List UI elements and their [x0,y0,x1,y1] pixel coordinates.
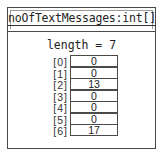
array-cell: 17 [70,124,118,136]
array-index: [2] [36,79,68,91]
object-header: noOfTextMessages:int[] [8,8,155,32]
array-row: [6] 17 [8,125,155,137]
object-title: noOfTextMessages:int[] [8,11,156,26]
array-index: [4] [36,102,68,114]
array-index: [5] [36,114,68,126]
array-cell: 0 [70,101,118,113]
array-cell: 0 [70,67,118,79]
array-index: [1] [36,68,68,80]
array-index: [3] [36,91,68,103]
array-object-box: noOfTextMessages:int[] length = 7 [0] 0 … [7,7,156,149]
array-index: [0] [36,56,68,68]
object-title-wrap: noOfTextMessages:int[] [8,11,155,25]
array-cell: 0 [70,55,118,67]
array-cell: 13 [70,78,118,90]
array-cell: 0 [70,90,118,102]
length-field: length = 7 [8,38,155,52]
array-cell: 0 [70,113,118,125]
array-index: [6] [36,125,68,137]
